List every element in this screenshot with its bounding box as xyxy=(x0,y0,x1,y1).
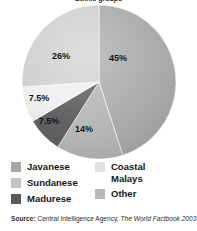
legend-swatch-icon-madurese xyxy=(11,194,21,204)
pie-shading-overlay xyxy=(22,5,176,159)
legend-swatch-icon-javanese xyxy=(11,162,21,172)
legend-item-coastal-malays[interactable]: Coastal Malays xyxy=(95,161,191,185)
pie-chart-svg: 45% 14% 7.5% 7.5% 26% xyxy=(0,2,197,162)
legend-label-coastal-malays: Coastal Malays xyxy=(111,161,145,184)
legend-label-other: Other xyxy=(111,188,136,200)
legend-swatch-icon-coastal-malays xyxy=(95,162,105,172)
pie-label-other: 26% xyxy=(52,51,70,61)
legend-item-other[interactable]: Other xyxy=(95,188,191,201)
pie-label-coastal-malays: 7.5% xyxy=(29,93,50,103)
source-label: Source: xyxy=(11,215,36,222)
pie-label-sundanese: 14% xyxy=(75,124,93,134)
pie-chart-area: 45% 14% 7.5% 7.5% 26% xyxy=(0,2,197,162)
pie-label-javanese: 45% xyxy=(109,53,127,63)
legend-column-right: Coastal Malays Other xyxy=(95,161,191,204)
source-publication: The World Factbook 2003 xyxy=(120,215,196,222)
source-agency: Central Intelligence Agency, xyxy=(36,215,121,222)
legend-column-left: Javanese Sundanese Madurese xyxy=(11,161,93,209)
legend-item-madurese[interactable]: Madurese xyxy=(11,193,93,206)
legend-label-javanese: Javanese xyxy=(27,161,70,173)
pie-chart-figure: Ethnic groups 45% 14% 7 xyxy=(0,0,197,231)
pie-label-madurese: 7.5% xyxy=(39,116,60,126)
legend-item-javanese[interactable]: Javanese xyxy=(11,161,93,174)
legend-label-madurese: Madurese xyxy=(27,193,71,205)
legend-label-sundanese: Sundanese xyxy=(27,177,78,189)
legend-item-sundanese[interactable]: Sundanese xyxy=(11,177,93,190)
source-note: Source: Central Intelligence Agency, The… xyxy=(11,214,195,223)
chart-legend: Javanese Sundanese Madurese Coastal Mala… xyxy=(11,161,191,208)
legend-swatch-icon-sundanese xyxy=(11,178,21,188)
legend-swatch-icon-other xyxy=(95,189,105,199)
